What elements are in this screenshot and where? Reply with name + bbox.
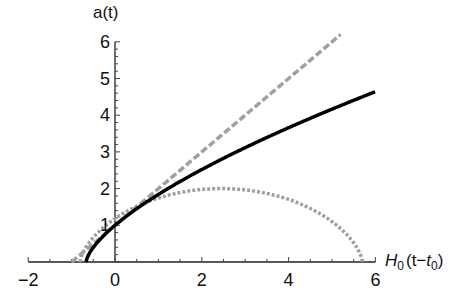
x-axis-label: H0(t−t0) bbox=[385, 251, 443, 273]
tick-labels: −20246123456 bbox=[18, 32, 380, 290]
series-flat-solid bbox=[86, 92, 375, 262]
x-label-sub: 0 bbox=[397, 259, 404, 273]
x-tick-label: 6 bbox=[370, 270, 380, 290]
series-closed-dotted bbox=[80, 189, 362, 262]
y-tick-label: 5 bbox=[100, 69, 110, 89]
x-tick-label: 2 bbox=[197, 270, 207, 290]
x-label-mid: (t− bbox=[406, 251, 426, 270]
x-label-end: ) bbox=[438, 251, 444, 270]
y-tick-label: 1 bbox=[100, 215, 110, 235]
x-tick-label: 4 bbox=[284, 270, 294, 290]
y-tick-label: 2 bbox=[100, 179, 110, 199]
y-axis-label: a(t) bbox=[93, 3, 119, 22]
series-group bbox=[72, 35, 376, 263]
x-label-h: H bbox=[385, 251, 398, 270]
y-tick-label: 4 bbox=[100, 105, 110, 125]
chart-canvas: −20246123456 a(t) H0(t−t0) bbox=[0, 0, 459, 301]
x-tick-label: 0 bbox=[110, 270, 120, 290]
y-tick-label: 3 bbox=[100, 142, 110, 162]
y-tick-label: 6 bbox=[100, 32, 110, 52]
x-tick-label: −2 bbox=[18, 270, 39, 290]
